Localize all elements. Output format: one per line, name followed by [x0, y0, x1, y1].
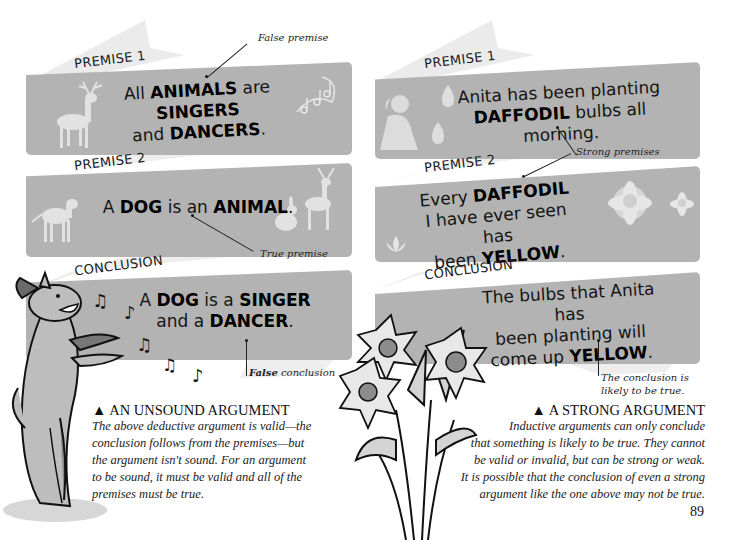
conclusion-text: A DOG is a SINGER and a DANCER. [130, 290, 320, 332]
premise1-text: Anita has been planting DAFFODIL bulbs a… [439, 76, 682, 151]
lotus-icon [384, 234, 408, 254]
pointer-dot [191, 214, 194, 217]
music-note-icon: ♫ [136, 334, 152, 355]
music-notes-icon [292, 72, 342, 122]
premise2-text: A DOG is an ANIMAL. [98, 197, 298, 218]
unsound-argument-body: The above deductive argument is valid—th… [92, 418, 322, 503]
music-note-icon: ♫ [92, 290, 108, 311]
strong-argument-body: Inductive arguments can only conclude th… [405, 418, 705, 503]
deer-icon [296, 168, 346, 238]
strong-premises-annotation: Strong premises [576, 146, 660, 157]
dog-icon [32, 196, 82, 251]
pointer-dot [205, 75, 208, 78]
girl-icon [378, 92, 428, 152]
true-premise-annotation: True premise [260, 248, 328, 259]
conclusion-pointer [598, 340, 599, 376]
pointer-dot [556, 126, 559, 129]
premise1-text: All ANIMALS are SINGERS and DANCERS. [96, 75, 299, 148]
false-conclusion-annotation: False conclusion [249, 367, 335, 378]
unsound-argument-title: ▲ AN UNSOUND ARGUMENT [92, 402, 290, 419]
daffodil-icon [600, 175, 670, 235]
music-note-icon: ♪ [192, 365, 204, 386]
music-note-icon: ♪ [124, 302, 136, 323]
strong-argument-title: ▲ A STRONG ARGUMENT [532, 402, 705, 419]
false-conclusion-pointer [246, 340, 247, 376]
daffodil-icon [668, 190, 698, 230]
music-note-icon: ♫ [162, 355, 177, 375]
page-number: 89 [690, 504, 704, 520]
conclusion-annotation: The conclusion is likely to be true. [601, 371, 689, 397]
false-premise-annotation: False premise [258, 32, 328, 43]
